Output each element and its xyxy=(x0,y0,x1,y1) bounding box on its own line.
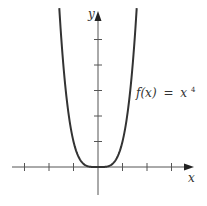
x-axis-label: x xyxy=(188,171,195,185)
chart-canvas: y x f(x) = x 4 xyxy=(0,0,207,206)
x-axis-arrow-icon xyxy=(184,164,194,171)
function-label: f(x) = x 4 xyxy=(135,86,196,100)
y-axis-arrow-icon xyxy=(95,11,102,21)
y-axis-label: y xyxy=(87,7,95,21)
